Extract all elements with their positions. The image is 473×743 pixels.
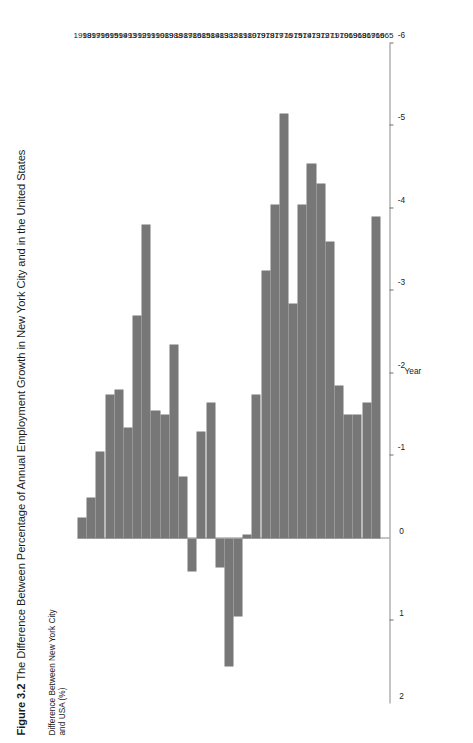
bar-row [279, 43, 288, 703]
bar-row [270, 43, 279, 703]
bar-row [123, 43, 132, 703]
year-label: 1965 [375, 31, 393, 40]
bar-row [187, 43, 196, 703]
bar-row [306, 43, 315, 703]
bar [105, 394, 114, 538]
bar [178, 476, 187, 538]
bar-row [251, 43, 260, 703]
value-tick [389, 125, 393, 126]
bar [160, 414, 169, 538]
bar-row [380, 43, 389, 703]
bar-row [316, 43, 325, 703]
value-axis-title: Difference Between New York City and USA… [46, 605, 66, 735]
bar-row [206, 43, 215, 703]
bar [371, 216, 380, 538]
bar-row [178, 43, 187, 703]
bar [288, 303, 297, 538]
value-tick-label: -1 [397, 442, 404, 452]
bar [325, 241, 334, 538]
bar [261, 270, 270, 538]
bar-row [233, 43, 242, 703]
bar-row [86, 43, 95, 703]
value-tick-label: -6 [397, 29, 404, 39]
bar-row [114, 43, 123, 703]
figure-number: Figure 3.2 [14, 683, 26, 735]
value-tick-label: 1 [399, 608, 404, 618]
value-tick [389, 620, 393, 621]
bar [233, 538, 242, 616]
bar-row [325, 43, 334, 703]
value-tick [389, 372, 393, 373]
bar [150, 410, 159, 538]
bar-row [215, 43, 224, 703]
value-tick [389, 42, 393, 43]
bar [343, 414, 352, 538]
bar [352, 414, 361, 538]
bar-row [95, 43, 104, 703]
category-axis-title: Year [404, 365, 421, 375]
bar [86, 497, 95, 538]
bar-row [242, 43, 251, 703]
bar-row [261, 43, 270, 703]
value-tick-label: -5 [397, 112, 404, 122]
bar-row [196, 43, 205, 703]
bar [169, 344, 178, 538]
bar-row [288, 43, 297, 703]
bar-row [352, 43, 361, 703]
bar [270, 204, 279, 538]
value-tick [389, 455, 393, 456]
bar [362, 402, 371, 538]
bar [279, 113, 288, 538]
value-tick [389, 290, 393, 291]
bar [206, 402, 215, 538]
figure-container: Figure 3.2 The Difference Between Percen… [0, 0, 473, 743]
bar [77, 517, 86, 538]
bar-row [105, 43, 114, 703]
value-tick-label: 2 [399, 691, 404, 701]
value-tick-label: -3 [397, 277, 404, 287]
bar [95, 451, 104, 538]
bar [187, 538, 196, 571]
bar [114, 390, 123, 539]
bar-row [371, 43, 380, 703]
value-tick [389, 207, 393, 208]
bar [334, 385, 343, 538]
bar [196, 431, 205, 538]
bar-row [224, 43, 233, 703]
bar-row [132, 43, 141, 703]
bar-row [334, 43, 343, 703]
figure-caption: The Difference Between Percentage of Ann… [14, 149, 26, 680]
bar-row [77, 43, 86, 703]
figure-title: Figure 3.2 The Difference Between Percen… [14, 15, 26, 735]
bar [123, 427, 132, 538]
plot-area: 1998199719961995199419931992199119901989… [77, 43, 389, 703]
value-tick-label: 0 [399, 526, 404, 536]
value-tick-label: -4 [397, 194, 404, 204]
bar-row [141, 43, 150, 703]
bar-row [297, 43, 306, 703]
bar [215, 538, 224, 567]
bar [316, 183, 325, 538]
bar [251, 394, 260, 538]
bar [297, 204, 306, 538]
rotated-page-wrapper: Figure 3.2 The Difference Between Percen… [0, 0, 473, 743]
bar [141, 225, 150, 539]
bar [224, 538, 233, 666]
bar-row [150, 43, 159, 703]
bar-row [169, 43, 178, 703]
bar [242, 534, 251, 538]
bar-row [343, 43, 352, 703]
bar [306, 163, 315, 538]
bar [132, 315, 141, 538]
bar-row [160, 43, 169, 703]
bar-row [362, 43, 371, 703]
